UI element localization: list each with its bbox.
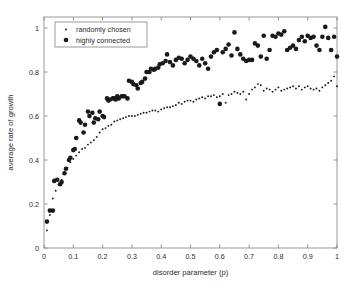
data-point — [311, 35, 316, 40]
data-point — [254, 86, 256, 88]
data-point — [175, 104, 177, 106]
data-point — [266, 88, 268, 90]
data-point — [207, 95, 209, 97]
data-point — [146, 112, 148, 114]
data-point — [335, 54, 340, 59]
data-point — [55, 178, 60, 183]
data-point — [277, 86, 279, 88]
data-point — [267, 48, 272, 53]
data-point — [324, 84, 326, 86]
y-axis-tick-label: 1 — [35, 24, 39, 33]
data-point — [97, 109, 102, 114]
data-point — [226, 42, 231, 47]
data-point — [201, 96, 203, 98]
data-point — [280, 90, 282, 92]
data-point — [195, 99, 197, 101]
data-point — [300, 35, 305, 40]
data-point — [113, 121, 115, 123]
data-point — [72, 147, 77, 152]
x-axis-tick-label: 0.3 — [127, 252, 137, 261]
data-point — [330, 80, 332, 82]
data-point — [239, 93, 241, 95]
data-point — [197, 63, 202, 68]
data-point — [321, 86, 323, 88]
data-point — [52, 198, 54, 200]
legend-label-highly-connected: highly connected — [76, 36, 130, 45]
data-point — [137, 114, 139, 116]
chart-figure: 00.10.20.30.40.50.60.70.80.9100.20.40.60… — [0, 0, 354, 288]
data-point — [263, 90, 265, 92]
data-point — [301, 89, 303, 91]
data-point — [134, 115, 136, 117]
data-point — [318, 90, 320, 92]
data-point — [108, 125, 110, 127]
data-point — [84, 147, 86, 149]
data-point — [181, 103, 183, 105]
data-point — [81, 130, 86, 135]
data-point — [256, 43, 261, 48]
y-axis-tick-label: 0.2 — [29, 200, 39, 209]
data-point — [179, 57, 184, 62]
data-point — [204, 97, 206, 99]
data-point — [131, 115, 133, 117]
data-point — [219, 95, 221, 97]
data-point — [298, 85, 300, 87]
x-axis-tick-label: 0.6 — [215, 252, 225, 261]
x-axis-tick-label: 0.4 — [156, 252, 166, 261]
data-point — [68, 156, 73, 161]
series-randomly-chosen — [46, 75, 338, 231]
data-point — [316, 88, 318, 90]
data-point — [329, 48, 334, 53]
data-point — [49, 214, 51, 216]
data-point — [336, 85, 338, 87]
data-point — [304, 86, 306, 88]
data-point — [140, 113, 142, 115]
data-point — [332, 35, 337, 40]
data-point — [165, 52, 170, 57]
data-point — [122, 117, 124, 119]
data-point — [302, 39, 307, 44]
y-axis-tick-label: 0.8 — [29, 68, 39, 77]
data-point — [90, 110, 95, 115]
data-point — [218, 102, 223, 107]
data-point — [216, 96, 218, 98]
data-point — [222, 93, 224, 95]
data-point — [228, 94, 230, 96]
data-point — [235, 47, 240, 52]
data-point — [184, 101, 186, 103]
data-point — [307, 85, 309, 87]
data-point — [313, 89, 315, 91]
data-point — [248, 93, 250, 95]
data-point — [203, 61, 208, 66]
data-point — [234, 91, 236, 93]
data-point — [261, 33, 266, 38]
data-point — [264, 57, 269, 62]
data-point — [333, 75, 335, 77]
data-point — [200, 57, 205, 62]
data-point — [160, 108, 162, 110]
data-point — [245, 99, 247, 101]
data-point — [236, 92, 238, 94]
data-point — [143, 112, 145, 114]
data-point — [198, 97, 200, 99]
data-point — [166, 106, 168, 108]
data-point — [169, 106, 171, 108]
x-axis-tick-label: 0.1 — [68, 252, 78, 261]
x-axis-tick-label: 0.8 — [273, 252, 283, 261]
data-point — [229, 53, 234, 58]
data-point — [81, 148, 83, 150]
data-point — [86, 109, 91, 114]
data-point — [105, 127, 107, 129]
series-highly-connected — [45, 25, 340, 224]
data-point — [231, 93, 233, 95]
data-point — [251, 89, 253, 91]
data-point — [294, 47, 299, 52]
data-point — [317, 48, 322, 53]
data-point — [259, 54, 264, 59]
y-axis-tick-label: 0.6 — [29, 112, 39, 121]
data-point — [275, 89, 277, 91]
data-point — [327, 82, 329, 84]
data-point — [72, 158, 74, 160]
data-point — [78, 120, 83, 125]
x-axis-tick-label: 0 — [42, 252, 46, 261]
